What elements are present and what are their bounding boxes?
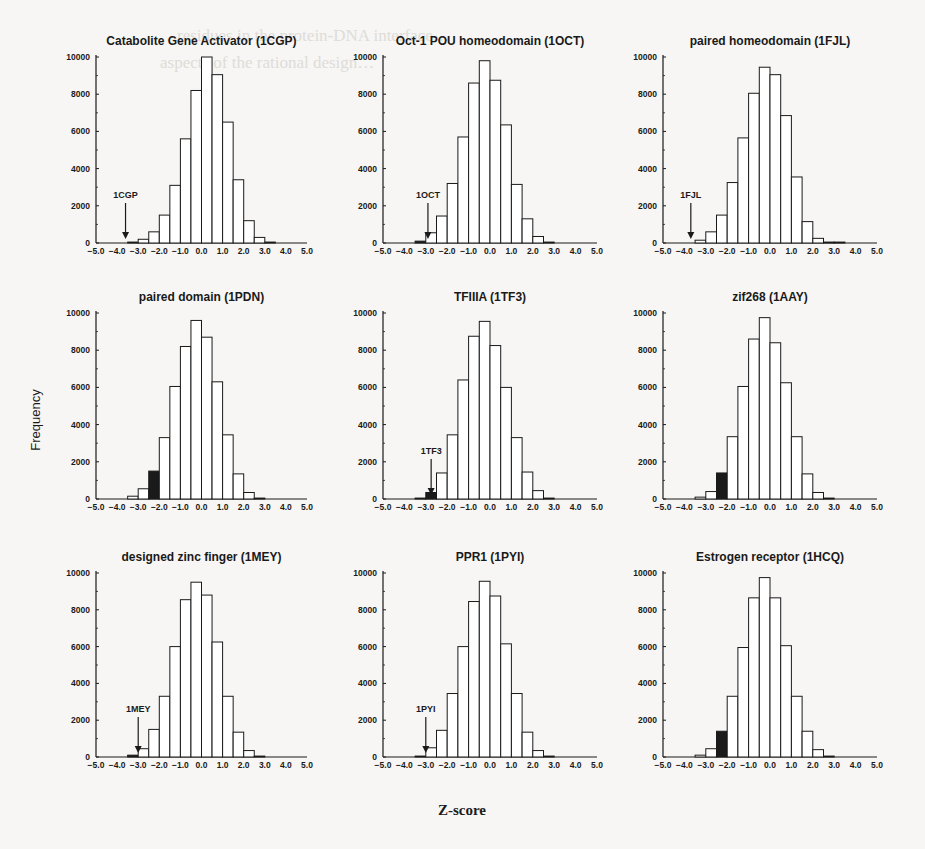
x-tick-label: 0.0	[484, 246, 496, 256]
x-tick-label: −4.0	[676, 502, 693, 512]
y-tick-label: 4000	[358, 678, 377, 688]
y-tick-label: 10000	[353, 308, 377, 318]
y-tick-label: 6000	[358, 382, 377, 392]
histogram-bar	[749, 93, 760, 243]
x-tick-label: 0.0	[764, 246, 776, 256]
histogram-bar	[437, 216, 448, 243]
y-tick-label: 8000	[358, 605, 377, 615]
x-tick-label: −5.0	[88, 502, 105, 512]
x-tick-label: −3.0	[697, 760, 714, 770]
histogram-bar	[180, 346, 191, 499]
x-tick-label: −4.0	[109, 502, 126, 512]
x-tick-label: 4.0	[570, 760, 582, 770]
histogram-bar	[128, 242, 139, 243]
y-tick-label: 2000	[71, 457, 90, 467]
histogram-bar	[138, 239, 149, 243]
histogram-bar	[781, 116, 792, 243]
histogram-bar	[770, 75, 781, 243]
highlighted-histogram-bar	[128, 755, 139, 757]
x-tick-label: −5.0	[88, 760, 105, 770]
x-tick-label: −4.0	[676, 246, 693, 256]
x-tick-label: −2.0	[439, 502, 456, 512]
histogram-bar	[170, 647, 181, 757]
histogram-bar	[533, 491, 544, 499]
histogram-bar	[180, 600, 191, 757]
histogram-bar	[180, 139, 191, 243]
highlighted-histogram-bar	[149, 471, 160, 499]
histogram-bar	[770, 598, 781, 757]
x-tick-label: −3.0	[417, 246, 434, 256]
x-tick-label: 3.0	[828, 246, 840, 256]
x-tick-label: 5.0	[591, 502, 603, 512]
histogram-bar	[501, 125, 512, 243]
y-tick-label: 4000	[638, 420, 657, 430]
histogram-bar	[738, 138, 749, 243]
x-tick-label: 4.0	[570, 502, 582, 512]
x-tick-label: −4.0	[396, 502, 413, 512]
histogram-bar	[159, 215, 170, 243]
y-tick-label: 6000	[638, 642, 657, 652]
histogram-bar	[706, 232, 717, 243]
x-tick-label: −1.0	[740, 246, 757, 256]
y-tick-label: 6000	[638, 126, 657, 136]
x-tick-label: 2.0	[527, 246, 539, 256]
y-tick-label: 2000	[638, 715, 657, 725]
y-tick-label: 6000	[71, 126, 90, 136]
histogram-bar	[813, 492, 824, 499]
histogram-bar	[490, 596, 501, 757]
histogram-bar	[458, 647, 469, 757]
histogram-bar	[149, 232, 160, 243]
x-tick-label: 2.0	[238, 246, 250, 256]
x-tick-label: 0.0	[196, 760, 208, 770]
histogram-panel: paired domain (1PDN)02000400060008000100…	[66, 290, 313, 512]
panel-title: paired homeodomain (1FJL)	[690, 34, 851, 48]
y-tick-label: 2000	[638, 457, 657, 467]
marker-label: 1MEY	[126, 704, 151, 714]
histogram-panel: paired homeodomain (1FJL)020004000600080…	[633, 34, 883, 256]
histogram-bar	[223, 435, 234, 499]
x-tick-label: −1.0	[460, 246, 477, 256]
x-tick-label: 3.0	[828, 502, 840, 512]
x-tick-label: 4.0	[850, 760, 862, 770]
histogram-figure: Catabolite Gene Activator (1CGP)02000400…	[0, 0, 925, 849]
histogram-bar	[802, 731, 813, 757]
histogram-bar	[522, 219, 533, 243]
x-tick-label: −5.0	[375, 760, 392, 770]
x-tick-label: −5.0	[655, 502, 672, 512]
histogram-bar	[458, 380, 469, 499]
x-tick-label: 3.0	[548, 246, 560, 256]
histogram-bar	[834, 242, 845, 243]
y-tick-label: 4000	[638, 678, 657, 688]
histogram-bar	[469, 602, 480, 757]
histogram-bar	[706, 749, 717, 757]
highlighted-histogram-bar	[717, 731, 728, 757]
histogram-bar	[244, 492, 255, 499]
x-tick-label: 3.0	[828, 760, 840, 770]
histogram-bar	[501, 387, 512, 499]
y-tick-label: 10000	[633, 568, 657, 578]
x-tick-label: −1.0	[740, 502, 757, 512]
x-tick-label: −1.0	[172, 246, 189, 256]
histogram-bar	[759, 318, 770, 499]
y-tick-label: 8000	[71, 605, 90, 615]
histogram-bar	[802, 222, 813, 243]
y-tick-label: 6000	[358, 126, 377, 136]
histogram-bar	[233, 180, 244, 243]
x-tick-label: −2.0	[719, 246, 736, 256]
y-tick-label: 4000	[358, 420, 377, 430]
y-tick-label: 8000	[71, 89, 90, 99]
histogram-bar	[781, 646, 792, 757]
x-tick-label: 2.0	[238, 502, 250, 512]
histogram-bar	[437, 730, 448, 757]
y-tick-label: 6000	[638, 382, 657, 392]
histogram-bar	[695, 240, 706, 243]
x-tick-label: −4.0	[396, 760, 413, 770]
histogram-bar	[415, 756, 426, 757]
y-tick-label: 2000	[358, 201, 377, 211]
x-tick-label: −4.0	[109, 246, 126, 256]
histogram-bar	[202, 595, 213, 757]
histogram-bar	[791, 437, 802, 499]
y-tick-label: 8000	[71, 345, 90, 355]
x-tick-label: 2.0	[238, 760, 250, 770]
y-tick-label: 2000	[638, 201, 657, 211]
